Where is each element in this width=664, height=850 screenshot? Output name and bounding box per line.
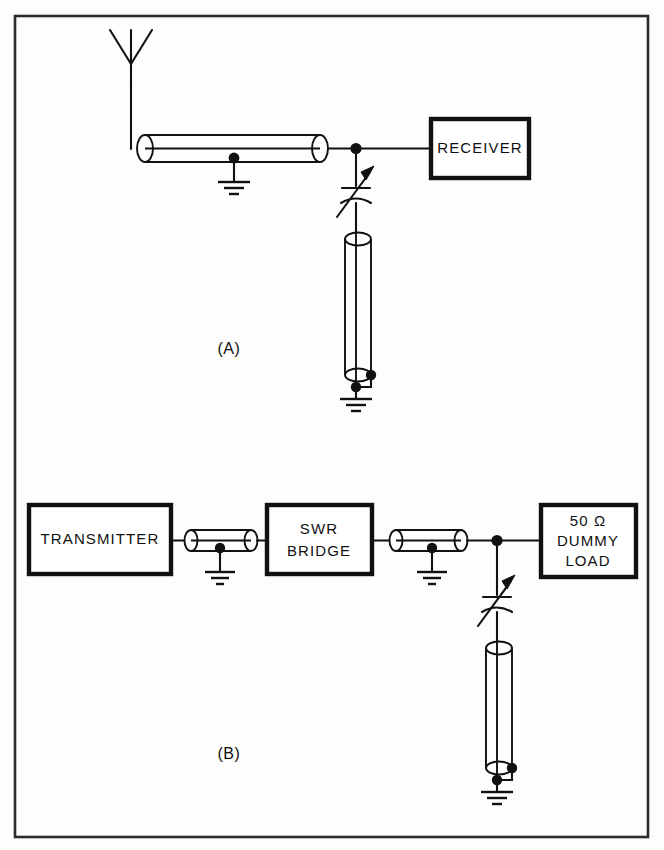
swr-bridge-label-line2: BRIDGE <box>287 542 351 559</box>
receiver-label: RECEIVER <box>437 139 523 156</box>
coax2-ground <box>417 543 447 584</box>
panel-b-label: (B) <box>217 745 240 762</box>
coaxial-stub-a <box>345 232 371 382</box>
schematic-diagram: RECEIVER <box>0 0 664 850</box>
coaxial-stub-b <box>486 641 512 775</box>
panel-b: TRANSMITTER SWR <box>29 505 636 804</box>
swr-bridge-box[interactable] <box>267 505 372 574</box>
panel-a-label: (A) <box>217 340 240 357</box>
figure-border <box>15 16 648 837</box>
dummy-load-label-line2: DUMMY <box>557 532 619 549</box>
antenna-icon <box>110 30 152 84</box>
transmitter-label: TRANSMITTER <box>41 530 160 547</box>
swr-bridge-label-line1: SWR <box>300 520 338 537</box>
figure-root: RECEIVER <box>0 0 664 850</box>
dummy-load-label-line3: LOAD <box>565 552 610 569</box>
panel-a: RECEIVER <box>110 30 529 411</box>
dummy-load-label-line1: 50 Ω <box>570 512 606 529</box>
coax1-ground <box>205 543 235 584</box>
feedline-ground <box>218 153 250 194</box>
